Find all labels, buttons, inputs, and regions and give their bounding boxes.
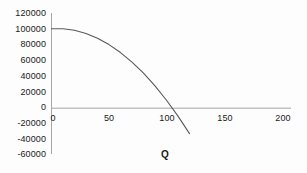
x-tick-50: 50 xyxy=(89,113,129,123)
y-tick-0: 0 xyxy=(2,102,46,112)
x-tick-150: 150 xyxy=(205,113,245,123)
y-tick-40000: 40000 xyxy=(2,71,46,81)
chart-figure: 120000 100000 80000 60000 40000 20000 0 … xyxy=(0,0,307,173)
plot-area xyxy=(0,0,307,173)
x-tick-200: 200 xyxy=(263,113,303,123)
x-tick-0: 0 xyxy=(33,113,73,123)
y-tick-100000: 100000 xyxy=(2,24,46,34)
y-tick-80000: 80000 xyxy=(2,39,46,49)
x-tick-100: 100 xyxy=(147,113,187,123)
y-tick-minus60000: -60000 xyxy=(2,149,46,159)
y-tick-minus40000: -40000 xyxy=(2,134,46,144)
y-tick-60000: 60000 xyxy=(2,55,46,65)
x-axis-title: Q xyxy=(150,149,180,160)
y-tick-20000: 20000 xyxy=(2,87,46,97)
y-tick-120000: 120000 xyxy=(2,8,46,18)
